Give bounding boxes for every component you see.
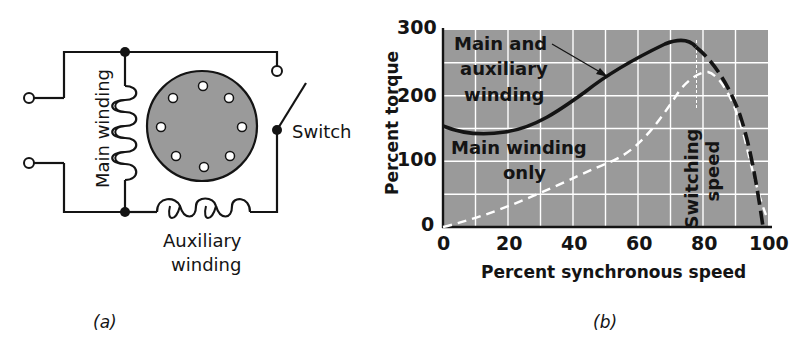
wire-top-right [125, 52, 277, 66]
caption-b: (b) [593, 312, 617, 332]
x-tick-40: 40 [561, 232, 587, 254]
aux-winding-coil [157, 199, 250, 217]
switch-label: Switch [292, 121, 352, 142]
x-tick-0: 0 [437, 232, 450, 254]
junction-dot-top [120, 47, 130, 57]
input-terminal-2 [24, 158, 34, 168]
input-terminal-1 [24, 93, 34, 103]
x-tick-100: 100 [749, 232, 789, 254]
y-tick-100: 100 [397, 148, 437, 170]
main-winding-label: Main winding [92, 69, 113, 189]
caption-a: (a) [93, 312, 117, 332]
switch-pivot-dot [272, 125, 282, 135]
aux-winding-label-line1: Auxiliary [163, 230, 241, 251]
rotor [147, 71, 257, 181]
annotation-switching: Switching [681, 129, 702, 229]
annotation-main-only-line1: Main winding [451, 137, 587, 158]
x-tick-20: 20 [496, 232, 522, 254]
annotation-main-only-line2: only [503, 162, 546, 183]
x-tick-80: 80 [691, 232, 717, 254]
aux-winding-label-line2: winding [171, 254, 241, 275]
annotation-main-aux-line2: auxiliary [460, 58, 548, 79]
annotation-speed: speed [702, 142, 723, 202]
x-axis-label: Percent synchronous speed [481, 262, 746, 282]
x-tick-60: 60 [626, 232, 652, 254]
y-tick-0: 0 [421, 213, 434, 235]
y-tick-300: 300 [397, 16, 437, 38]
annotation-main-aux-line3: winding [464, 84, 544, 105]
y-axis-label: Percent torque [382, 55, 402, 195]
switch-contact-open [272, 66, 282, 76]
junction-dot-bottom [120, 207, 130, 217]
annotation-main-aux-line1: Main and [454, 33, 547, 54]
y-tick-200: 200 [397, 84, 437, 106]
